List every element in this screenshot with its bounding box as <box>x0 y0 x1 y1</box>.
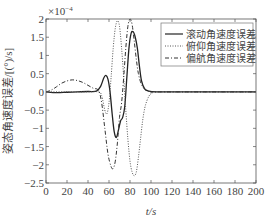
y-tick-label: −1.5 <box>24 141 44 153</box>
x-tick-label: 0 <box>43 185 49 197</box>
y-exponent-label: ×10−4 <box>48 5 73 17</box>
x-axis-label: t/s <box>146 205 156 217</box>
y-axis-label: 姿态角速度误差/[(°)/s] <box>1 48 15 154</box>
x-tick-label: 160 <box>206 185 223 197</box>
x-tick-label: 140 <box>185 185 202 197</box>
x-tick-label: 200 <box>248 185 265 197</box>
x-tick-label: 60 <box>104 185 116 197</box>
x-tick-label: 120 <box>164 185 181 197</box>
y-tick-label: 1.5 <box>30 31 44 43</box>
x-tick-label: 100 <box>143 185 160 197</box>
legend-label: 俯仰角速度误差 <box>186 40 256 52</box>
y-tick-label: 0.5 <box>30 68 44 80</box>
y-tick-label: 0 <box>39 86 45 98</box>
legend: 滚动角速度误差 俯仰角速度误差 偏航角速度误差 <box>161 23 256 66</box>
x-tick-label: 20 <box>62 185 74 197</box>
x-tick-label: 180 <box>227 185 244 197</box>
legend-label: 滚动角速度误差 <box>186 28 256 40</box>
y-tick-label: −1 <box>32 122 44 134</box>
line-chart: 020406080100120140160180200 21.510.50−0.… <box>0 0 275 219</box>
x-tick-label: 40 <box>83 185 95 197</box>
y-tick-label: −2.5 <box>24 177 44 189</box>
y-tick-label: −0.5 <box>24 104 44 116</box>
legend-label: 偏航角速度误差 <box>186 52 256 64</box>
y-tick-label: −2 <box>32 159 44 171</box>
y-tick-label: 2 <box>39 13 45 25</box>
x-tick-label: 80 <box>125 185 137 197</box>
y-tick-label: 1 <box>39 49 45 61</box>
